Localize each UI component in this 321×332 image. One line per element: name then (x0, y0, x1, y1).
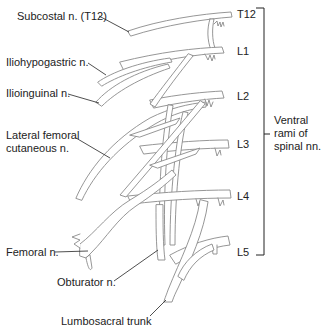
bracket-label-3: spinal nn. (274, 140, 321, 153)
leader-obturator (114, 250, 158, 281)
bracket-label-2: rami of (274, 127, 308, 140)
level-t12: T12 (237, 8, 256, 21)
label-lateral-femoral-1: Lateral femoral (6, 129, 79, 142)
leader-lumbosacral (150, 300, 166, 316)
level-l5: L5 (237, 246, 249, 259)
level-l1: L1 (237, 45, 249, 58)
label-subcostal: Subcostal n. (T12) (17, 10, 107, 23)
label-lateral-femoral-2: cutaneous n. (6, 142, 69, 155)
label-iliohypogastric: Iliohypogastric n. (6, 56, 89, 69)
bracket-label-1: Ventral (274, 114, 308, 127)
ventral-rami-bracket (256, 8, 264, 255)
leader-iliohypogastric (88, 63, 106, 75)
label-ilioinguinal: Ilioinguinal n. (6, 87, 70, 100)
level-l2: L2 (237, 90, 249, 103)
level-l4: L4 (237, 190, 249, 203)
level-l3: L3 (237, 138, 249, 151)
leader-ilioinguinal (68, 94, 99, 103)
label-lumbosacral: Lumbosacral trunk (61, 315, 152, 328)
label-femoral: Femoral n. (6, 246, 59, 259)
label-obturator: Obturator n. (57, 276, 116, 289)
leader-lateral-femoral (76, 138, 110, 158)
